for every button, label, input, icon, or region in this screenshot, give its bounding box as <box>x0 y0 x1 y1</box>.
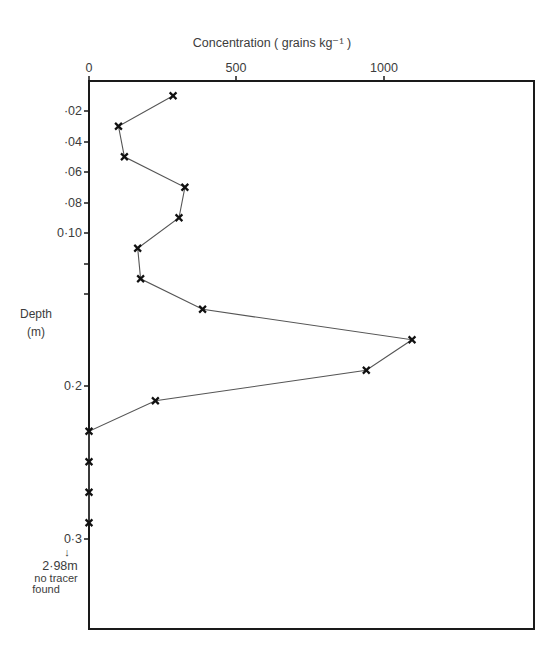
down-arrow-icon: ↓ <box>64 546 70 558</box>
data-markers <box>86 92 416 526</box>
y-axis-unit: (m) <box>27 325 45 339</box>
x-axis-title: Concentration ( grains kg⁻¹ ) <box>193 36 351 50</box>
concentration-line <box>89 96 412 523</box>
y-tick-label-0.3: 0·3 <box>64 532 82 546</box>
y-axis-title: Depth <box>20 307 52 321</box>
y-tick-label-0.2: 0·2 <box>64 379 82 393</box>
y-tick-label-0.02: ·02 <box>64 104 82 118</box>
data-point-marker <box>170 92 177 99</box>
y-tick-label-0.08: ·08 <box>64 196 82 210</box>
y-tick-label-0.06: ·06 <box>64 165 82 179</box>
annotation-depth: 2·98m <box>42 559 77 573</box>
y-tick-label-0.04: ·04 <box>64 135 82 149</box>
annotation-line-2: found <box>32 583 60 595</box>
plot-frame <box>89 81 534 629</box>
y-tick-label-0.10: 0·10 <box>57 226 82 240</box>
x-tick-label-500: 500 <box>226 61 247 75</box>
x-tick-label-1000: 1000 <box>370 61 398 75</box>
x-tick-label-0: 0 <box>86 61 93 75</box>
depth-profile-chart: Concentration ( grains kg⁻¹ ) 0 500 1000… <box>0 0 558 646</box>
